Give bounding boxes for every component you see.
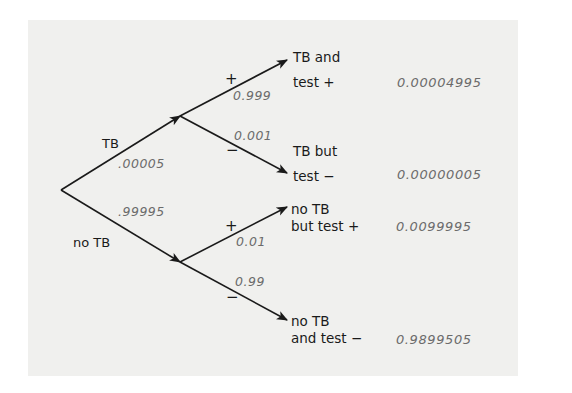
branch-no-tb	[61, 190, 180, 262]
branch-tb	[61, 116, 180, 190]
outcome-no-tb-and-test-negative: no TB and test −	[291, 312, 362, 348]
label-no-tb: no TB	[73, 236, 110, 249]
joint-prob-tb-but-test-negative: 0.00000005	[397, 168, 482, 181]
outcome-line2: test +	[293, 73, 340, 92]
outcome-no-tb-but-test-positive: no TB but test +	[291, 200, 359, 236]
prob-no-tb-negative: 0.99	[235, 276, 265, 289]
outcome-line2: and test −	[291, 329, 362, 348]
sign-tb-positive: +	[225, 72, 238, 87]
tree-branches	[0, 0, 572, 393]
prob-tb: .00005	[118, 158, 165, 171]
joint-prob-tb-and-test-positive: 0.00004995	[397, 76, 482, 89]
outcome-line2: but test +	[291, 217, 359, 236]
joint-prob-no-tb-but-test-positive: 0.0099995	[396, 220, 472, 233]
outcome-line1: TB and	[293, 48, 340, 67]
prob-no-tb-positive: 0.01	[236, 236, 266, 249]
outcome-tb-and-test-positive: TB and test +	[293, 48, 340, 92]
outcome-line2: test −	[293, 167, 337, 186]
outcome-line1: TB but	[293, 142, 337, 161]
sign-tb-negative: −	[226, 143, 239, 158]
prob-no-tb: .99995	[118, 206, 165, 219]
prob-tb-negative: 0.001	[234, 130, 272, 143]
sign-no-tb-positive: +	[225, 219, 238, 234]
sign-no-tb-negative: −	[226, 290, 239, 305]
label-tb: TB	[102, 137, 119, 150]
outcome-tb-but-test-negative: TB but test −	[293, 142, 337, 186]
prob-tb-positive: 0.999	[233, 90, 271, 103]
joint-prob-no-tb-and-test-negative: 0.9899505	[396, 333, 472, 346]
